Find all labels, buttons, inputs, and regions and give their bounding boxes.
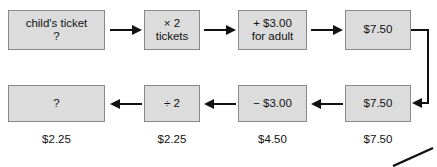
node-label-line: ? (53, 97, 59, 111)
node-childs-ticket[interactable]: child's ticket ? (8, 10, 105, 50)
arrow-right-1 (110, 23, 142, 37)
arrow-left-1 (110, 97, 142, 111)
node-label-line: − $3.00 (253, 97, 292, 111)
arrow-left-3 (311, 97, 343, 111)
node-label-line: tickets (156, 30, 189, 44)
node-label-line: $7.50 (364, 97, 393, 111)
arrow-right-2 (204, 23, 236, 37)
node-label-line: + $3.00 (253, 17, 292, 31)
node-top-total[interactable]: $7.50 (345, 10, 411, 50)
node-times-two-tickets[interactable]: × 2 tickets (144, 10, 200, 50)
node-label-line: ? (53, 30, 59, 44)
node-plus-three-for-adult[interactable]: + $3.00 for adult (238, 10, 307, 50)
caption-value-1: $2.25 (8, 133, 105, 145)
arrow-right-3 (311, 23, 343, 37)
node-label-line: for adult (252, 30, 294, 44)
node-minus-three[interactable]: − $3.00 (238, 85, 307, 122)
node-divide-two[interactable]: ÷ 2 (144, 85, 200, 122)
caption-value-3: $4.50 (238, 133, 307, 145)
node-label-line: child's ticket (26, 17, 88, 31)
node-label-line: × 2 (164, 17, 180, 31)
wrap-connector (411, 24, 437, 110)
arrow-left-2 (204, 97, 236, 111)
node-unknown-result[interactable]: ? (8, 85, 105, 122)
node-label-line: ÷ 2 (164, 97, 180, 111)
caption-value-4: $7.50 (345, 133, 411, 145)
node-label-line: $7.50 (364, 23, 393, 37)
scan-artifact-diagonal (393, 148, 437, 167)
flowchart-canvas: child's ticket ? × 2 tickets + $3.00 for… (0, 0, 437, 167)
node-bottom-total[interactable]: $7.50 (345, 85, 411, 122)
caption-value-2: $2.25 (144, 133, 200, 145)
